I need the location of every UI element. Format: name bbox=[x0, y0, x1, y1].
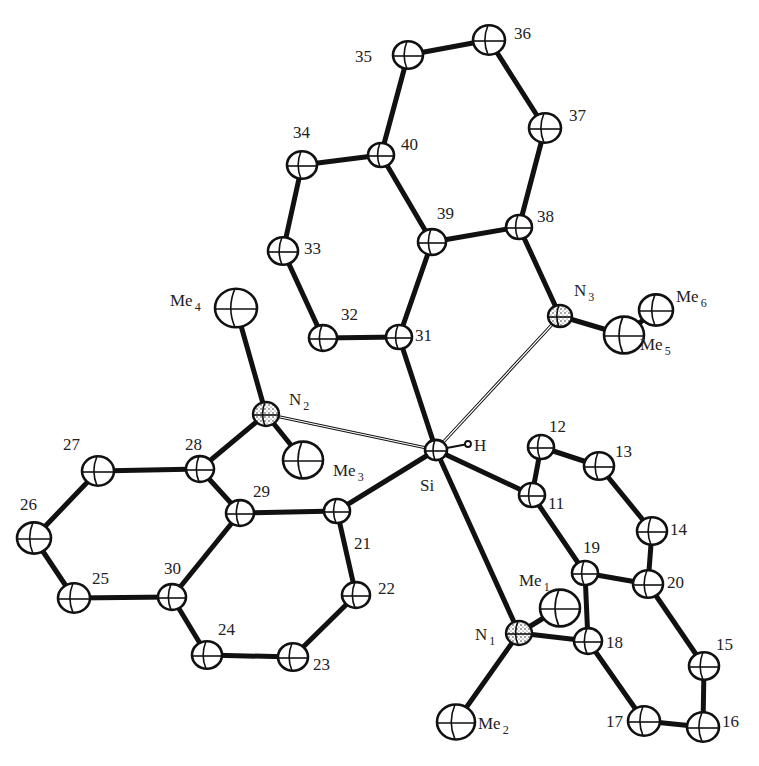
atom-40 bbox=[368, 143, 394, 167]
atom-Me1 bbox=[540, 590, 580, 627]
atom-label-29: 29 bbox=[253, 482, 270, 501]
bond-30-29 bbox=[172, 513, 240, 597]
atom-17 bbox=[628, 706, 660, 735]
atom-Si bbox=[425, 440, 447, 460]
atom-label-39: 39 bbox=[437, 204, 454, 223]
molecular-structure-diagram: 35363740343938333231N3Me5Me6Me4N2Me3SiH2… bbox=[0, 0, 759, 766]
atom-27 bbox=[82, 456, 114, 485]
atom-label-19: 19 bbox=[583, 538, 600, 557]
atom-label-Me6: Me6 bbox=[676, 287, 707, 310]
atom-37 bbox=[529, 113, 561, 142]
atom-24 bbox=[192, 641, 222, 669]
atom-38 bbox=[506, 215, 532, 239]
atom-label-36: 36 bbox=[514, 24, 531, 43]
atom-label-28: 28 bbox=[185, 435, 202, 454]
bond-Si-11 bbox=[436, 450, 532, 495]
atom-Me5 bbox=[604, 317, 644, 354]
atom-29 bbox=[226, 500, 254, 526]
atom-31 bbox=[386, 325, 412, 349]
atom-label-33: 33 bbox=[304, 239, 321, 258]
atom-label-18: 18 bbox=[606, 633, 623, 652]
atom-14 bbox=[637, 517, 667, 545]
atom-label-22: 22 bbox=[378, 579, 395, 598]
atom-label-Me5: Me5 bbox=[640, 335, 671, 358]
atom-label-Si: Si bbox=[420, 476, 434, 495]
atom-label-Me2: Me2 bbox=[478, 714, 509, 737]
atom-label-17: 17 bbox=[606, 712, 624, 731]
bond-Si-N1 bbox=[436, 450, 519, 633]
atom-22 bbox=[342, 582, 370, 608]
atom-21 bbox=[324, 499, 350, 523]
atom-label-34: 34 bbox=[293, 123, 311, 142]
atom-label-Me4: Me4 bbox=[170, 291, 201, 314]
atom-label-21: 21 bbox=[354, 534, 371, 553]
atom-16 bbox=[687, 712, 719, 741]
atom-label-25: 25 bbox=[92, 569, 109, 588]
atom-label-Me1: Me1 bbox=[519, 571, 550, 594]
atom-label-31: 31 bbox=[415, 326, 432, 345]
atom-20 bbox=[633, 570, 663, 598]
atom-Me3 bbox=[283, 442, 323, 479]
atom-Me2 bbox=[437, 705, 475, 740]
atom-N3 bbox=[548, 305, 572, 327]
atom-25 bbox=[58, 583, 90, 612]
atom-label-37: 37 bbox=[569, 106, 587, 125]
atom-label-24: 24 bbox=[218, 620, 236, 639]
atom-N2 bbox=[253, 402, 279, 426]
bond-layer bbox=[34, 40, 704, 727]
atom-label-N2: N2 bbox=[289, 390, 309, 413]
bond-38-N3 bbox=[519, 227, 560, 316]
bond-31-Si bbox=[399, 337, 436, 450]
atom-label-40: 40 bbox=[401, 135, 418, 154]
atom-label-15: 15 bbox=[716, 635, 733, 654]
atom-32 bbox=[309, 325, 337, 351]
atom-label-11: 11 bbox=[548, 494, 564, 513]
atom-label-38: 38 bbox=[537, 207, 554, 226]
atom-label-Me3: Me3 bbox=[333, 461, 364, 484]
atom-Me4 bbox=[215, 289, 257, 328]
atom-H bbox=[465, 441, 471, 447]
label-layer: 35363740343938333231N3Me5Me6Me4N2Me3SiH2… bbox=[20, 24, 739, 737]
atom-label-H: H bbox=[474, 436, 486, 455]
atom-Me6 bbox=[639, 294, 673, 325]
atom-label-16: 16 bbox=[722, 712, 739, 731]
atom-label-30: 30 bbox=[164, 559, 181, 578]
atom-N1 bbox=[506, 621, 532, 645]
atom-39 bbox=[418, 229, 446, 255]
atom-label-26: 26 bbox=[20, 495, 37, 514]
atom-label-N3: N3 bbox=[574, 281, 594, 304]
atom-30 bbox=[158, 584, 186, 610]
bond-40-39 bbox=[381, 155, 432, 242]
atom-15 bbox=[689, 652, 719, 680]
atom-36 bbox=[473, 25, 505, 54]
bond-31-39 bbox=[399, 242, 432, 337]
atom-18 bbox=[574, 628, 602, 654]
atom-13 bbox=[584, 452, 614, 480]
atom-26 bbox=[17, 522, 51, 553]
atom-label-12: 12 bbox=[549, 417, 566, 436]
atom-28 bbox=[186, 456, 214, 482]
atom-label-14: 14 bbox=[670, 520, 688, 539]
atom-label-32: 32 bbox=[341, 305, 358, 324]
atom-label-20: 20 bbox=[667, 573, 684, 592]
atom-12 bbox=[528, 435, 554, 459]
atom-19 bbox=[572, 561, 598, 585]
atom-label-23: 23 bbox=[313, 655, 330, 674]
atom-label-27: 27 bbox=[63, 435, 81, 454]
bond-N3-Si-inner bbox=[436, 316, 560, 450]
atom-23 bbox=[278, 643, 308, 671]
atom-11 bbox=[519, 483, 545, 507]
atom-label-13: 13 bbox=[615, 442, 632, 461]
atom-34 bbox=[287, 151, 317, 179]
atom-35 bbox=[393, 41, 423, 69]
atom-label-35: 35 bbox=[355, 47, 372, 66]
atom-label-N1: N1 bbox=[475, 625, 495, 648]
atom-33 bbox=[268, 237, 298, 265]
